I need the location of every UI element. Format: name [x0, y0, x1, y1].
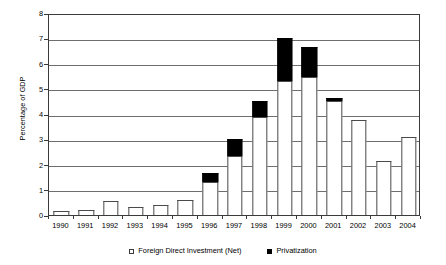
- bar-stack[interactable]: [401, 137, 416, 215]
- bar-segment-privatization[interactable]: [302, 47, 317, 77]
- x-axis-tick-mark: [395, 216, 396, 219]
- bar-segment-fdi[interactable]: [376, 161, 391, 215]
- bar-stack[interactable]: [128, 207, 143, 215]
- x-axis-tick-label: 2003: [370, 221, 395, 230]
- bar-slot: [148, 15, 173, 215]
- bar-segment-privatization[interactable]: [277, 38, 292, 81]
- x-axis-tick-label: 1996: [197, 221, 222, 230]
- bar-segment-fdi[interactable]: [153, 205, 168, 215]
- stacked-bar-chart: Percentage of GDP 1990199119921993199419…: [0, 0, 446, 265]
- bar-segment-privatization[interactable]: [227, 139, 242, 155]
- x-axis-tick-mark: [321, 216, 322, 219]
- bar-segment-fdi[interactable]: [54, 211, 69, 215]
- y-axis-tick-label: 6: [13, 61, 43, 68]
- chart-legend: Foreign Direct Investment (Net) Privatiz…: [0, 247, 446, 255]
- bar-segment-privatization[interactable]: [252, 101, 267, 116]
- bar-stack[interactable]: [178, 200, 193, 215]
- x-axis-tick-mark: [296, 216, 297, 219]
- bar-segment-fdi[interactable]: [178, 200, 193, 215]
- x-axis-tick-label: 2000: [296, 221, 321, 230]
- bar-stack[interactable]: [327, 98, 342, 215]
- y-axis-tick-mark: [44, 115, 48, 116]
- x-axis-tick-mark: [370, 216, 371, 219]
- y-axis-tick-mark: [44, 216, 48, 217]
- legend-label-fdi: Foreign Direct Investment (Net): [138, 247, 241, 255]
- y-axis-tick-label: 3: [13, 136, 43, 143]
- y-axis-tick-mark: [44, 64, 48, 65]
- legend-entry-fdi: Foreign Direct Investment (Net): [129, 247, 241, 255]
- x-axis-tick-mark: [147, 216, 148, 219]
- x-axis-tick-label: 2002: [346, 221, 371, 230]
- x-axis-tick-label: 1999: [271, 221, 296, 230]
- x-axis-tick-mark: [420, 216, 421, 219]
- y-axis-tick-label: 4: [13, 111, 43, 118]
- bar-stack[interactable]: [351, 120, 366, 215]
- bar-stack[interactable]: [252, 101, 267, 215]
- bar-slot: [396, 15, 421, 215]
- y-axis-tick-mark: [44, 89, 48, 90]
- y-axis-tick-label: 7: [13, 35, 43, 42]
- bar-segment-fdi[interactable]: [302, 77, 317, 215]
- legend-entry-privatization: Privatization: [267, 247, 316, 255]
- x-axis-tick-label: 1993: [122, 221, 147, 230]
- x-axis-tick-label: 1992: [98, 221, 123, 230]
- bar-segment-fdi[interactable]: [128, 207, 143, 215]
- x-axis-tick-mark: [346, 216, 347, 219]
- x-axis-tick-mark: [122, 216, 123, 219]
- y-axis-tick-label: 8: [13, 10, 43, 17]
- bar-stack[interactable]: [376, 161, 391, 215]
- bar-stack[interactable]: [277, 38, 292, 215]
- bar-slot: [247, 15, 272, 215]
- legend-swatch-hollow-square-icon: [129, 249, 134, 254]
- y-axis-tick-mark: [44, 39, 48, 40]
- bar-stack[interactable]: [227, 139, 242, 215]
- x-axis-tick-mark: [172, 216, 173, 219]
- bar-slot: [272, 15, 297, 215]
- y-axis-tick-label: 0: [13, 212, 43, 219]
- x-axis-tick-label: 2001: [321, 221, 346, 230]
- y-axis-tick-mark: [44, 14, 48, 15]
- bar-slot: [347, 15, 372, 215]
- bar-segment-fdi[interactable]: [103, 201, 118, 215]
- y-axis-tick-label: 5: [13, 86, 43, 93]
- x-axis-tick-label: 2004: [395, 221, 420, 230]
- x-axis-tick-label: 1994: [147, 221, 172, 230]
- x-axis-tick-mark: [271, 216, 272, 219]
- y-axis-tick-mark: [44, 165, 48, 166]
- x-axis-tick-mark: [98, 216, 99, 219]
- bar-slot: [74, 15, 99, 215]
- bar-stack[interactable]: [103, 201, 118, 215]
- x-axis-tick-label: 1991: [73, 221, 98, 230]
- x-axis-tick-mark: [197, 216, 198, 219]
- bar-stack[interactable]: [54, 211, 69, 215]
- bar-segment-fdi[interactable]: [227, 156, 242, 215]
- bar-slot: [198, 15, 223, 215]
- y-axis-tick-mark: [44, 140, 48, 141]
- plot-area: [48, 14, 420, 216]
- bar-stack[interactable]: [203, 173, 218, 215]
- bar-segment-fdi[interactable]: [203, 182, 218, 215]
- bar-segment-fdi[interactable]: [327, 101, 342, 215]
- bar-stack[interactable]: [302, 47, 317, 215]
- x-axis-tick-mark: [48, 216, 49, 219]
- x-axis-label-group: 1990199119921993199419951996199719981999…: [48, 221, 420, 233]
- bar-segment-fdi[interactable]: [79, 210, 94, 215]
- bar-segment-fdi[interactable]: [401, 137, 416, 215]
- y-axis-tick-label: 2: [13, 162, 43, 169]
- x-axis-tick-label: 1998: [246, 221, 271, 230]
- x-axis-tick-mark: [246, 216, 247, 219]
- x-axis-tick-group: [48, 216, 420, 220]
- y-axis-tick-mark: [44, 190, 48, 191]
- x-axis-tick-label: 1990: [48, 221, 73, 230]
- bar-stack[interactable]: [153, 205, 168, 215]
- bar-segment-privatization[interactable]: [203, 173, 218, 182]
- bar-segment-fdi[interactable]: [277, 81, 292, 215]
- bar-slot: [49, 15, 74, 215]
- bar-segment-fdi[interactable]: [351, 120, 366, 215]
- bar-slot: [173, 15, 198, 215]
- y-axis-tick-label: 1: [13, 187, 43, 194]
- bar-slot: [223, 15, 248, 215]
- bar-slot: [371, 15, 396, 215]
- bar-segment-fdi[interactable]: [252, 117, 267, 215]
- bar-stack[interactable]: [79, 210, 94, 215]
